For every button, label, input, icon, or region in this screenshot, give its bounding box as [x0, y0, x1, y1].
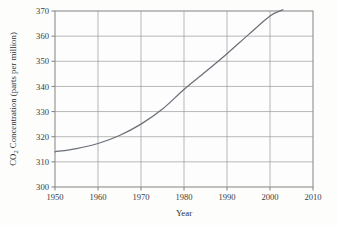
x-tick-label-2000: 2000: [261, 192, 278, 202]
x-tick-label-1970: 1970: [132, 192, 149, 202]
x-axis-title: Year: [176, 208, 192, 218]
x-tick-label-1980: 1980: [175, 192, 192, 202]
y-axis-title: CO2 Concentration (parts per million): [8, 32, 19, 166]
y-tick-label-320: 320: [36, 132, 49, 142]
co2-concentration-figure: 300310320330340350360370 195019601970198…: [0, 0, 337, 225]
x-tick-label-1950: 1950: [46, 192, 63, 202]
co2-line-chart: 300310320330340350360370 195019601970198…: [0, 0, 337, 225]
y-tick-label-340: 340: [36, 82, 49, 92]
y-tick-label-330: 330: [36, 107, 49, 117]
x-tick-label-1990: 1990: [218, 192, 235, 202]
x-axis-tick-labels: 1950196019701980199020002010: [46, 192, 321, 202]
y-tick-label-310: 310: [36, 157, 49, 167]
x-tick-label-2010: 2010: [304, 192, 321, 202]
y-tick-label-360: 360: [36, 31, 49, 41]
y-tick-label-350: 350: [36, 56, 49, 66]
x-tick-label-1960: 1960: [89, 192, 106, 202]
y-tick-label-370: 370: [36, 6, 49, 16]
y-axis-tick-labels: 300310320330340350360370: [36, 6, 49, 192]
y-tick-label-300: 300: [36, 182, 49, 192]
